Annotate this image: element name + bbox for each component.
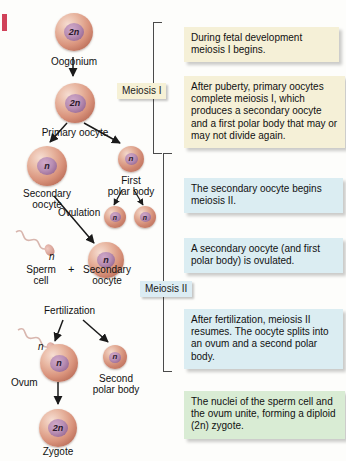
sperm-tail-upper (16, 231, 46, 249)
nucleus-oogonium: 2n (64, 23, 84, 41)
cell-polar-body-split-a: n (104, 206, 126, 228)
label-primary-oocyte: Primary oocyte (23, 127, 127, 138)
cell-first-polar-body: n (118, 146, 144, 172)
nucleus-secondary-oocyte: n (37, 157, 57, 175)
label-sperm-ploidy-upper: n (49, 251, 55, 262)
stage-tag-meiosis-1: Meiosis I (117, 83, 166, 99)
nucleus-primary-oocyte: 2n (65, 94, 86, 113)
label-sperm-cell-line2: cell (10, 275, 72, 286)
label-secondary-oocyte-line1: Secondary (10, 188, 84, 199)
label-second-polar-body-line2: polar body (82, 384, 150, 395)
note-after-fertilization: After fertilization, meiosis II resumes.… (184, 309, 343, 369)
label-second-polar-body-line1: Second (82, 373, 150, 384)
note-after-puberty: After puberty, primary oocytes complete … (184, 76, 345, 148)
scan-artifact-mark (2, 14, 7, 31)
nucleus-zygote: 2n (48, 419, 68, 437)
note-ovulated: A secondary oocyte (and first polar body… (184, 238, 343, 273)
cell-primary-oocyte: 2n (55, 83, 95, 123)
label-sperm-ploidy-lower: n (38, 341, 44, 352)
oogenesis-diagram: 2n Oogonium 2n Primary oocyte n Secondar… (0, 0, 346, 461)
nucleus-ovum: n (50, 355, 69, 372)
arrow-fertilization-to-second-polar-body (83, 320, 108, 342)
cell-polar-body-split-b: n (134, 206, 156, 228)
label-first-polar-body-line2: polar body (96, 186, 166, 197)
label-ovulation: Ovulation (58, 207, 100, 218)
label-sperm-cell-line1: Sperm (10, 264, 72, 275)
cell-secondary-oocyte: n (27, 146, 67, 186)
label-fertilization: Fertilization (44, 305, 95, 316)
note-fetal-development: During fetal development meiosis I begin… (184, 27, 339, 62)
label-plus-sign: + (68, 264, 74, 275)
stage-tag-meiosis-2: Meiosis II (140, 281, 192, 297)
label-ovum: Ovum (11, 377, 38, 388)
nucleus-first-polar-body: n (125, 153, 138, 165)
label-oogonium: Oogonium (38, 56, 110, 67)
cell-ovum: n (40, 344, 78, 382)
nucleus-second-polar-body: n (109, 352, 121, 363)
label-zygote: Zygote (24, 446, 92, 457)
label-secondary-oocyte2-line1: Secondary (76, 264, 138, 275)
label-secondary-oocyte2-line2: oocyte (76, 275, 138, 286)
note-nuclei-unite: The nuclei of the sperm cell and the ovu… (184, 391, 345, 439)
bracket-meiosis-2 (163, 153, 172, 372)
nucleus-polar-body-split-a: n (110, 212, 121, 222)
cell-second-polar-body: n (103, 345, 127, 369)
arrow-fertilization-to-ovum (55, 320, 63, 341)
nucleus-polar-body-split-b: n (140, 212, 151, 222)
cell-zygote: 2n (39, 409, 77, 447)
note-begins-meiosis-2: The secondary oocyte begins meiosis II. (184, 178, 343, 213)
cell-oogonium: 2n (55, 13, 93, 51)
label-first-polar-body-line1: First (96, 175, 166, 186)
